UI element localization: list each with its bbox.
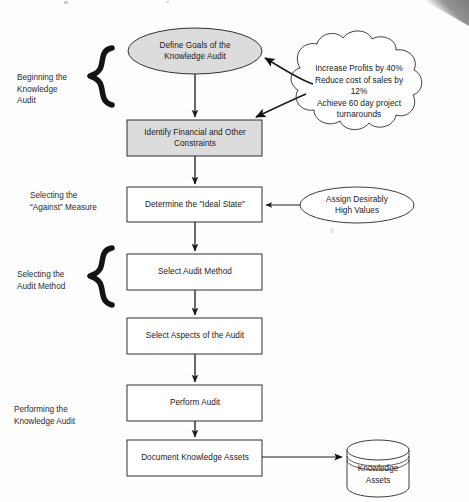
cloud-line-1: Increase Profits by 40%: [303, 63, 415, 75]
stage-beginning-line-1: Beginning the: [17, 72, 101, 84]
node-perform-audit: [127, 385, 262, 421]
data-store-label: Knowledge Assets: [344, 463, 412, 486]
cloud-line-4: Achieve 60 day project: [303, 98, 415, 110]
node-identify-constraints: [127, 120, 262, 156]
stage-performing-line-2: Knowledge Audit: [14, 416, 108, 428]
node-select-aspects: [127, 318, 262, 354]
stage-against-line-1: Selecting the: [30, 190, 120, 202]
flowchart-canvas: Define Goals of the Knowledge Audit Iden…: [0, 0, 469, 502]
cloud-text: Increase Profits by 40% Reduce cost of s…: [303, 63, 415, 121]
node-assign-values: [300, 187, 414, 223]
cloud-line-2: Reduce cost of sales by: [303, 75, 415, 87]
stage-against-line-2: “Against” Measure: [30, 202, 120, 214]
node-select-audit-method: [127, 254, 262, 290]
cloud-line-3: 12%: [303, 86, 415, 98]
stage-label-against-measure: Selecting the “Against” Measure: [30, 190, 120, 213]
stage-label-beginning: Beginning the Knowledge Audit: [17, 72, 101, 107]
node-define-goals: [128, 28, 262, 74]
stage-performing-line-1: Performing the: [14, 404, 108, 416]
arrow-cloud-to-constraints: [256, 94, 306, 117]
stage-beginning-line-3: Audit: [17, 95, 101, 107]
stage-label-audit-method: Selecting the Audit Method: [17, 269, 101, 292]
node-determine-ideal-state: [127, 187, 262, 222]
stage-beginning-line-2: Knowledge: [17, 84, 101, 96]
node-document-assets: [127, 440, 262, 476]
stage-method-line-2: Audit Method: [17, 281, 101, 293]
data-store-line-1: Knowledge: [344, 463, 412, 475]
data-store-line-2: Assets: [344, 475, 412, 487]
stage-method-line-1: Selecting the: [17, 269, 101, 281]
stage-label-performing: Performing the Knowledge Audit: [14, 404, 108, 427]
cloud-line-5: turnarounds: [303, 109, 415, 121]
